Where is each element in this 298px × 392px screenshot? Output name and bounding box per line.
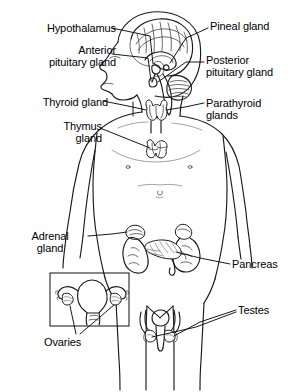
label-parathyroid-line2: glands xyxy=(206,109,298,121)
label-posterior-pituitary-line1: Posterior xyxy=(206,54,298,66)
label-adrenal-line2: gland xyxy=(10,242,90,254)
label-thymus-line2: gland xyxy=(12,132,102,144)
label-pineal-gland: Pineal gland xyxy=(210,20,296,32)
label-anterior-pituitary-line2: pituitary gland xyxy=(2,56,116,68)
leader-testes-right xyxy=(174,310,236,336)
thyroid-gland-organ xyxy=(146,100,167,133)
label-adrenal-line1: Adrenal xyxy=(10,230,90,242)
label-anterior-pituitary-gland: Anterior pituitary gland xyxy=(2,44,116,69)
label-thymus-line1: Thymus xyxy=(12,120,102,132)
leader-anterior-pituitary xyxy=(112,54,151,81)
leader-ovaries-left xyxy=(70,306,76,334)
label-adrenal-gland: Adrenal gland xyxy=(10,230,90,255)
leader-thymus xyxy=(100,128,150,148)
label-posterior-pituitary-gland: Posterior pituitary gland xyxy=(206,54,298,79)
leader-ovaries-right xyxy=(80,305,114,334)
label-parathyroid-line1: Parathyroid xyxy=(206,97,298,109)
label-thyroid-text: Thyroid gland xyxy=(43,96,108,108)
label-hypothalamus-text: Hypothalamus xyxy=(47,22,116,34)
label-pancreas: Pancreas xyxy=(232,258,296,270)
label-anterior-pituitary-line1: Anterior xyxy=(2,44,116,56)
thymus-gland-organ xyxy=(147,140,167,158)
label-ovaries: Ovaries xyxy=(44,336,114,348)
label-thymus-gland: Thymus gland xyxy=(12,120,102,145)
label-testes: Testes xyxy=(238,304,296,316)
label-hypothalamus: Hypothalamus xyxy=(6,22,116,34)
leader-thyroid xyxy=(103,101,146,110)
leader-adrenal xyxy=(88,232,127,236)
label-pancreas-text: Pancreas xyxy=(232,258,278,270)
endocrine-system-diagram: Hypothalamus Anterior pituitary gland Pi… xyxy=(0,0,298,392)
label-parathyroid-glands: Parathyroid glands xyxy=(206,97,298,122)
label-ovaries-text: Ovaries xyxy=(44,336,81,348)
label-testes-text: Testes xyxy=(238,304,269,316)
label-pineal-text: Pineal gland xyxy=(210,20,269,32)
label-posterior-pituitary-line2: pituitary gland xyxy=(206,66,298,78)
label-thyroid-gland: Thyroid gland xyxy=(6,96,108,108)
